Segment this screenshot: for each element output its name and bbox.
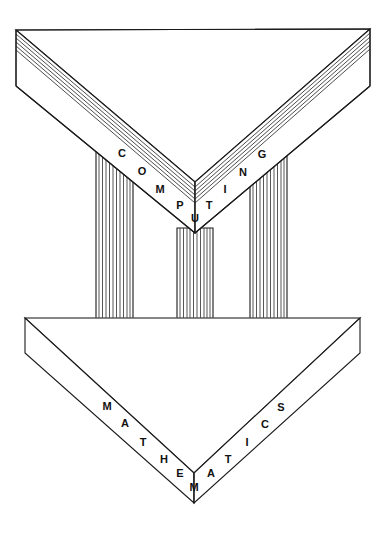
pediment-letter-2: M [155, 183, 164, 195]
base-letter-4: E [176, 467, 183, 479]
pediment-letter-1: O [138, 165, 147, 177]
pediment-letter-8: G [258, 148, 267, 160]
base-letter-7: T [225, 453, 232, 465]
figure-canvas: M A T H E M A T I C S [0, 0, 385, 536]
base-letter-8: I [245, 436, 248, 448]
pediment-letter-5: T [206, 199, 213, 211]
base-letter-5: M [189, 481, 198, 493]
base-letter-9: C [261, 418, 269, 430]
base-platform [25, 318, 360, 503]
pediment [16, 29, 370, 233]
pediment-letter-0: C [118, 147, 126, 159]
temple-diagram: M A T H E M A T I C S [0, 0, 385, 536]
pediment-letter-3: P [176, 199, 183, 211]
pediment-letter-7: N [239, 166, 247, 178]
pediment-letter-4: U [191, 212, 199, 224]
base-letter-6: A [207, 467, 215, 479]
base-letter-3: H [160, 453, 168, 465]
base-letter-1: A [121, 417, 129, 429]
base-letter-2: T [140, 436, 147, 448]
base-letter-0: M [102, 400, 111, 412]
pediment-letter-6: I [223, 183, 226, 195]
base-letter-10: S [277, 401, 284, 413]
